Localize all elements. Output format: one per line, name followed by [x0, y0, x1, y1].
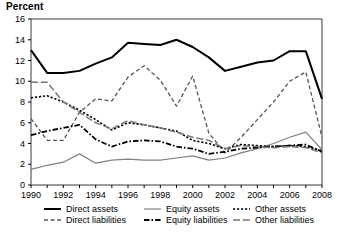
x-tick-label: 2006 [280, 190, 300, 200]
plot-frame [31, 19, 322, 185]
legend-label: Other liabilities [255, 215, 315, 225]
series-line [31, 125, 322, 154]
legend-label: Direct liabilities [66, 215, 127, 225]
y-tick-label: 16 [15, 14, 25, 24]
chart-container: Percent 02468101214161990199219941996199… [0, 0, 337, 232]
x-tick-label: 2004 [247, 190, 267, 200]
x-tick-label: 2008 [312, 190, 332, 200]
legend-label: Other assets [255, 204, 307, 214]
y-tick-label: 10 [15, 76, 25, 86]
x-tick-label: 1992 [53, 190, 73, 200]
y-tick-label: 0 [20, 180, 25, 190]
line-chart: 0246810121416199019921994199619982000200… [0, 0, 337, 232]
y-tick-label: 6 [20, 118, 25, 128]
y-tick-label: 8 [20, 97, 25, 107]
x-tick-label: 2000 [183, 190, 203, 200]
series-line [31, 132, 322, 169]
series-line [31, 96, 322, 151]
y-tick-label: 12 [15, 56, 25, 66]
y-tick-label: 14 [15, 35, 25, 45]
x-tick-label: 1998 [150, 190, 170, 200]
legend-label: Equity liabilities [166, 215, 228, 225]
x-tick-label: 1990 [21, 190, 41, 200]
x-tick-label: 1994 [86, 190, 106, 200]
x-tick-label: 1996 [118, 190, 138, 200]
legend-label: Direct assets [66, 204, 119, 214]
series-line [31, 40, 322, 99]
x-tick-label: 2002 [215, 190, 235, 200]
legend-label: Equity assets [166, 204, 220, 214]
y-tick-label: 2 [20, 159, 25, 169]
y-tick-label: 4 [20, 139, 25, 149]
